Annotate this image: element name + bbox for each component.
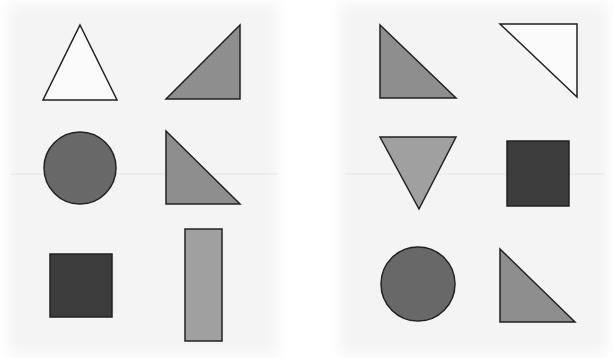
right-circle-shape xyxy=(381,247,455,321)
left-square-shape xyxy=(50,254,112,317)
left-right-triangle-right-angle-bottom-right-shape xyxy=(166,25,240,99)
right-right-triangle-right-angle-bottom-left-shape xyxy=(380,25,456,98)
left-equilateral-triangle-up-shape xyxy=(43,25,117,100)
right-square-shape xyxy=(507,141,569,206)
left-tall-rectangle-shape xyxy=(185,229,222,341)
right-right-triangle-right-angle-top-right-shape xyxy=(500,24,577,97)
left-right-triangle-right-angle-bottom-left-shape xyxy=(166,131,240,204)
right-inverted-triangle-shape xyxy=(380,137,456,209)
shapes-canvas xyxy=(0,0,613,358)
left-circle-shape xyxy=(44,132,116,204)
right-right-triangle-right-angle-bottom-left-shape xyxy=(500,249,575,322)
